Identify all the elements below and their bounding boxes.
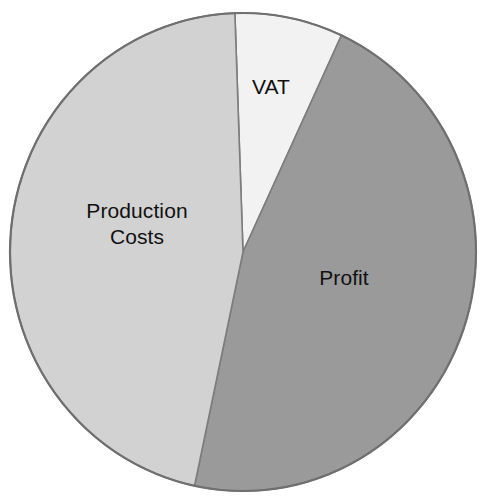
pie-slice-group: [10, 13, 476, 491]
pie-slice-production-costs: [10, 13, 243, 486]
pie-chart: Production Costs VAT Profit: [0, 0, 484, 503]
pie-chart-canvas: [0, 0, 484, 503]
